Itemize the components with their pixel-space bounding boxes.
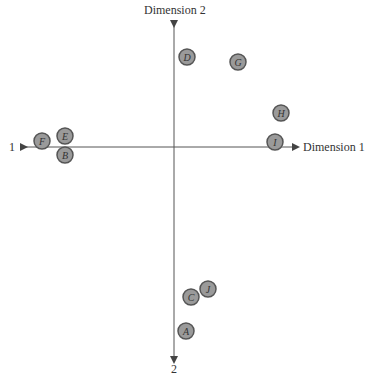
svg-text:A: A [182,326,190,337]
svg-text:H: H [276,108,285,119]
y-axis-label: Dimension 2 [144,3,206,18]
point-d: D [179,49,195,65]
y-axis-negative-label: 2 [171,362,177,377]
svg-text:G: G [234,57,241,68]
svg-text:E: E [61,131,68,142]
point-c: C [183,289,199,305]
x-axis-negative-label: 1 [9,140,15,155]
svg-text:D: D [182,52,191,63]
point-h: H [273,105,289,121]
point-g: G [230,54,246,70]
point-b: B [57,147,73,163]
point-j: J [200,281,216,297]
point-a: A [178,323,194,339]
perceptual-map: ABCDEFGHIJ [0,0,370,379]
svg-text:J: J [206,284,211,295]
point-e: E [57,128,73,144]
point-i: I [267,134,283,150]
point-f: F [34,133,50,149]
svg-text:C: C [188,292,195,303]
x-axis-label: Dimension 1 [303,140,365,155]
svg-text:I: I [272,137,277,148]
data-points: ABCDEFGHIJ [34,49,289,339]
svg-text:B: B [62,150,68,161]
svg-text:F: F [38,136,46,147]
